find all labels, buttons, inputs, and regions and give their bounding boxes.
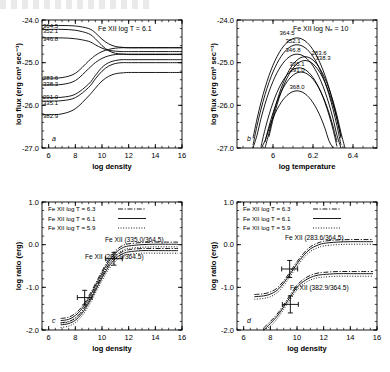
panel-b: 66.26.4-24.0-25.0-26.0-27.0log temperatu… bbox=[195, 8, 390, 188]
data-point-errorbar bbox=[77, 290, 92, 305]
x-tick-label: 6 bbox=[242, 333, 246, 342]
ratio-curve bbox=[61, 251, 178, 325]
x-tick-label: 14 bbox=[151, 151, 159, 160]
x-tick-label: 10 bbox=[293, 333, 301, 342]
curve-label: 346.8 bbox=[285, 47, 301, 53]
x-tick-label: 12 bbox=[319, 333, 327, 342]
panel-a-title: Fe XII log T = 6.1 bbox=[98, 25, 152, 33]
x-tick-label: 8 bbox=[73, 151, 77, 160]
curve-label: 338.3 bbox=[315, 55, 331, 61]
ratio-curve bbox=[264, 271, 373, 327]
flux-curve bbox=[42, 54, 182, 85]
curve-label: 364.5 bbox=[279, 30, 295, 36]
x-tick-label: 10 bbox=[98, 333, 106, 342]
panel-letter: b bbox=[247, 135, 251, 142]
flux-curve bbox=[42, 63, 182, 101]
flux-curve bbox=[42, 38, 182, 52]
y-tick-label: -26.0 bbox=[22, 101, 39, 110]
series-annotation: Fe XII (382.9/364.5) bbox=[290, 284, 349, 292]
y-tick-label: -24.0 bbox=[217, 16, 234, 25]
y-tick-label: -27.0 bbox=[22, 144, 39, 153]
x-axis-label: log temperature bbox=[279, 162, 336, 171]
figure-container: 6810121416-24.0-25.0-26.0-27.0log densit… bbox=[0, 0, 390, 372]
x-tick-label: 16 bbox=[178, 333, 186, 342]
curve-label: 335.1 bbox=[43, 100, 59, 106]
x-axis-label: log density bbox=[287, 344, 327, 353]
y-tick-label: 0.0 bbox=[224, 240, 234, 249]
x-tick-label: 16 bbox=[373, 333, 381, 342]
x-tick-label: 6.4 bbox=[348, 151, 358, 160]
panel-b-plot: 66.26.4-24.0-25.0-26.0-27.0log temperatu… bbox=[195, 8, 390, 188]
data-point-errorbar bbox=[282, 260, 298, 277]
x-tick-label: 8 bbox=[268, 333, 272, 342]
legend-label: Fe XII log T = 6.3 bbox=[48, 205, 96, 212]
ratio-curve bbox=[61, 253, 178, 327]
panel-d-plot: 68101214161.00.0-1.0-2.0log densitylog r… bbox=[195, 190, 390, 370]
x-tick-label: 10 bbox=[98, 151, 106, 160]
x-tick-label: 14 bbox=[151, 333, 159, 342]
y-tick-label: -2.0 bbox=[221, 326, 234, 335]
y-tick-label: -26.0 bbox=[217, 101, 234, 110]
x-tick-label: 6 bbox=[271, 151, 275, 160]
panel-c: 68101214161.00.0-1.0-2.0log densitylog r… bbox=[0, 190, 195, 370]
series-annotation: Fe XII (335.0/364.5) bbox=[105, 236, 164, 244]
x-axis-label: log density bbox=[92, 162, 132, 171]
y-tick-label: -1.0 bbox=[26, 283, 39, 292]
x-tick-label: 16 bbox=[178, 151, 186, 160]
curve-label: 291.0 bbox=[289, 67, 305, 73]
panel-b-title: Fe XII log Nₑ = 10 bbox=[293, 25, 348, 33]
panel-a-plot: 6810121416-24.0-25.0-26.0-27.0log densit… bbox=[0, 8, 195, 188]
x-tick-label: 6 bbox=[47, 151, 51, 160]
panel-d: 68101214161.00.0-1.0-2.0log densitylog r… bbox=[195, 190, 390, 370]
legend-label: Fe XII log T = 5.9 bbox=[243, 224, 291, 231]
curve-label: 382.9 bbox=[43, 113, 59, 119]
legend-label: Fe XII log T = 6.3 bbox=[243, 205, 291, 212]
x-axis-label: log density bbox=[92, 344, 132, 353]
x-tick-label: 14 bbox=[346, 333, 354, 342]
y-tick-label: -24.0 bbox=[22, 16, 39, 25]
series-annotation: Fe XII (291.0/364.5) bbox=[85, 253, 144, 261]
curve-label: 352.1 bbox=[43, 28, 59, 34]
series-annotation: Fe XII (283.6/364.5) bbox=[285, 234, 344, 242]
curve-label: 283.6 bbox=[43, 75, 59, 81]
y-tick-label: -25.0 bbox=[22, 58, 39, 67]
y-axis-label: log ratio (erg) bbox=[14, 241, 23, 290]
panel-c-plot: 68101214161.00.0-1.0-2.0log densitylog r… bbox=[0, 190, 195, 370]
y-tick-label: 1.0 bbox=[29, 198, 39, 207]
y-tick-label: -2.0 bbox=[26, 326, 39, 335]
curve-label: 338.3 bbox=[43, 81, 59, 87]
x-tick-label: 12 bbox=[124, 333, 132, 342]
flux-curve bbox=[42, 60, 182, 98]
data-point-errorbar bbox=[282, 296, 298, 313]
x-tick-label: 6 bbox=[47, 333, 51, 342]
x-tick-label: 8 bbox=[73, 333, 77, 342]
y-axis-label: log flux (erg cm³ sec⁻¹) bbox=[209, 43, 218, 125]
flux-curve bbox=[42, 72, 182, 114]
curve-label: 368.0 bbox=[289, 84, 305, 90]
panel-letter: c bbox=[52, 317, 56, 324]
y-tick-label: -1.0 bbox=[221, 283, 234, 292]
curve-label: 352.1 bbox=[285, 38, 301, 44]
panel-letter: d bbox=[247, 317, 252, 324]
legend-label: Fe XII log T = 6.1 bbox=[48, 215, 96, 222]
panel-letter: a bbox=[52, 135, 56, 142]
x-tick-label: 12 bbox=[124, 151, 132, 160]
x-tick-label: 6.2 bbox=[308, 151, 318, 160]
y-tick-label: -27.0 bbox=[217, 144, 234, 153]
legend-label: Fe XII log T = 6.1 bbox=[243, 215, 291, 222]
curve-label: 346.8 bbox=[43, 36, 59, 42]
y-tick-label: -25.0 bbox=[217, 58, 234, 67]
y-axis-label: log ratio (erg) bbox=[209, 241, 218, 290]
y-tick-label: 1.0 bbox=[224, 198, 234, 207]
y-axis-label: log flux (erg cm³ sec⁻¹) bbox=[14, 43, 23, 125]
panel-a: 6810121416-24.0-25.0-26.0-27.0log densit… bbox=[0, 8, 195, 188]
plot-frame bbox=[237, 20, 377, 148]
ratio-curve bbox=[264, 274, 373, 330]
y-tick-label: 0.0 bbox=[29, 240, 39, 249]
legend-label: Fe XII log T = 5.9 bbox=[48, 224, 96, 231]
